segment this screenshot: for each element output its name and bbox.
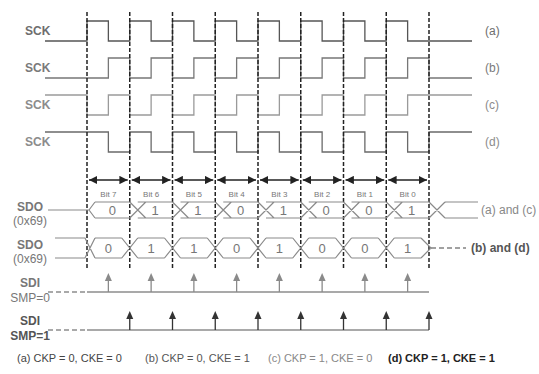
sample-arrow-icon (212, 311, 219, 319)
sample-arrow-icon (297, 311, 304, 319)
sample-arrow-icon (383, 311, 390, 319)
mode-tag: (c) (485, 98, 499, 112)
sck-label: SCK (25, 24, 51, 38)
sdo-bit-value: 0 (233, 241, 240, 256)
sdo-bit-value: 0 (109, 203, 116, 218)
bit-label: Bit 6 (143, 190, 160, 199)
sample-arrow-icon (276, 273, 283, 281)
sdo-sublabel: (0x69) (13, 214, 47, 228)
sdo-bit-value: 0 (319, 241, 326, 256)
sdo-bit-value: 1 (194, 203, 201, 218)
sdi-label: SDI (20, 314, 40, 328)
sdo-mode-tag: (b) and (d) (471, 241, 530, 255)
bit-period-guides: Bit 7Bit 6Bit 5Bit 4Bit 3Bit 2Bit 1Bit 0 (87, 12, 429, 268)
sdo-label: SDO (17, 238, 43, 252)
mode-tag: (d) (485, 135, 500, 149)
sdo-bit-value: 0 (365, 203, 372, 218)
sdi-sublabel: SMP=0 (10, 291, 50, 305)
mode-tag: (b) (485, 61, 500, 75)
sdo-label: SDO (17, 200, 43, 214)
bit-label: Bit 1 (357, 190, 374, 199)
sdo-bit-value: 0 (237, 203, 244, 218)
sample-arrow-icon (404, 273, 411, 281)
sample-arrow-icon (426, 311, 433, 319)
sdo-bit-value: 1 (276, 241, 283, 256)
bit-label: Bit 3 (271, 190, 288, 199)
sdo-bit-value: 0 (105, 241, 112, 256)
sample-arrow-icon (169, 311, 176, 319)
sck-label: SCK (25, 98, 51, 112)
sample-arrow-icon (148, 273, 155, 281)
caption-mode-d: (d) CKP = 1, CKE = 1 (388, 352, 495, 364)
sck-label: SCK (25, 135, 51, 149)
sample-arrow-icon (105, 273, 112, 281)
mode-tag: (a) (485, 24, 500, 38)
sample-arrow-icon (340, 311, 347, 319)
sdo-bit-value: 1 (280, 203, 287, 218)
sample-arrow-icon (190, 273, 197, 281)
sdo-mode-tag: (a) and (c) (481, 203, 536, 217)
sdo-bit-value: 0 (361, 241, 368, 256)
spi-timing-diagram: SCK(a)SCK(b)SCK(c)SCK(d) Bit 7Bit 6Bit 5… (0, 0, 539, 374)
bit-label: Bit 7 (100, 190, 117, 199)
sck-label: SCK (25, 61, 51, 75)
caption-mode-c: (c) CKP = 1, CKE = 0 (268, 352, 372, 364)
caption-mode-b: (b) CKP = 0, CKE = 1 (145, 352, 250, 364)
bit-label: Bit 0 (400, 190, 417, 199)
sdo-waveforms: SDO(0x69)01101001(a) and (c)SDO(0x69)011… (13, 200, 536, 266)
sample-arrow-icon (319, 273, 326, 281)
bit-label: Bit 5 (186, 190, 203, 199)
caption-mode-a: (a) CKP = 0, CKE = 0 (17, 352, 122, 364)
sample-arrow-icon (126, 311, 133, 319)
sdo-bit-value: 0 (323, 203, 330, 218)
sample-arrow-icon (255, 311, 262, 319)
sdo-bit-value: 1 (408, 203, 415, 218)
bit-label: Bit 4 (229, 190, 246, 199)
sdo-bit-value: 1 (152, 203, 159, 218)
sdi-label: SDI (20, 276, 40, 290)
sample-arrow-icon (233, 273, 240, 281)
sdo-bit-value: 1 (190, 241, 197, 256)
sdi-sample-rows: SDISMP=0SDISMP=1 (10, 273, 432, 343)
sdo-sublabel: (0x69) (13, 252, 47, 266)
sdo-bit-value: 1 (404, 241, 411, 256)
sample-arrow-icon (361, 273, 368, 281)
bit-label: Bit 2 (314, 190, 331, 199)
mode-captions: (a) CKP = 0, CKE = 0(b) CKP = 0, CKE = 1… (17, 352, 495, 364)
sdo-bit-value: 1 (148, 241, 155, 256)
sdi-sublabel: SMP=1 (10, 329, 50, 343)
